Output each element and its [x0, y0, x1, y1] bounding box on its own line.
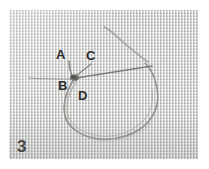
- annotation-label-d: D: [78, 89, 87, 102]
- suture-straight-strand: [76, 66, 152, 78]
- suture-tail-upper: [104, 27, 148, 62]
- annotation-label-b: B: [58, 79, 67, 92]
- suture-free-end-upper-left: [69, 61, 72, 76]
- suture-thread-illustration: [0, 0, 209, 169]
- figure-number: 3: [17, 138, 26, 155]
- figure-image: A B C D 3: [0, 0, 209, 169]
- annotation-label-c: C: [86, 49, 95, 62]
- suture-knot: [70, 74, 79, 80]
- suture-free-end-upper-right: [76, 64, 91, 76]
- suture-tail-upper-highlight: [117, 35, 147, 60]
- annotation-label-a: A: [56, 48, 65, 61]
